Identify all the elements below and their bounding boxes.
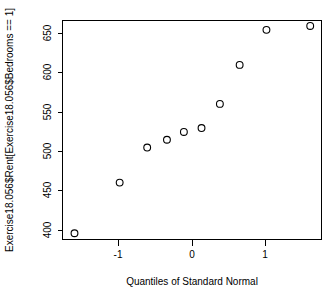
x-tick-label-0: 0 [189, 249, 195, 260]
y-tick-label-550: 550 [42, 103, 53, 120]
y-tick-label-500: 500 [42, 142, 53, 159]
data-point [144, 144, 151, 151]
plot-box-border [63, 21, 322, 240]
y-tick-label-450: 450 [42, 181, 53, 198]
data-point [307, 23, 314, 30]
data-point [216, 100, 223, 107]
data-point [164, 136, 171, 143]
qq-plot-figure: 650 600 550 500 450 400 -1 0 1 Quantiles… [0, 0, 335, 297]
data-point [236, 62, 243, 69]
y-axis-tick-labels: 650 600 550 500 450 400 [42, 24, 53, 238]
y-tick-label-400: 400 [42, 221, 53, 238]
x-tick-label-minus1: -1 [114, 249, 123, 260]
data-point [180, 129, 187, 136]
data-point [71, 230, 78, 237]
data-point [116, 179, 123, 186]
y-axis-ticks [58, 34, 63, 231]
data-point [198, 125, 205, 132]
y-axis-title: Exercise18.056$Rent[Exercise18.056$Bedro… [4, 8, 15, 252]
data-points-layer [71, 23, 314, 237]
y-tick-label-600: 600 [42, 63, 53, 80]
x-axis-title: Quantiles of Standard Normal [126, 276, 258, 287]
data-point [263, 26, 270, 33]
y-tick-label-650: 650 [42, 24, 53, 41]
x-axis-ticks [119, 240, 266, 246]
plot-canvas: 650 600 550 500 450 400 -1 0 1 Quantiles… [0, 0, 335, 297]
x-axis-tick-labels: -1 0 1 [114, 249, 269, 260]
x-tick-label-1: 1 [262, 249, 268, 260]
